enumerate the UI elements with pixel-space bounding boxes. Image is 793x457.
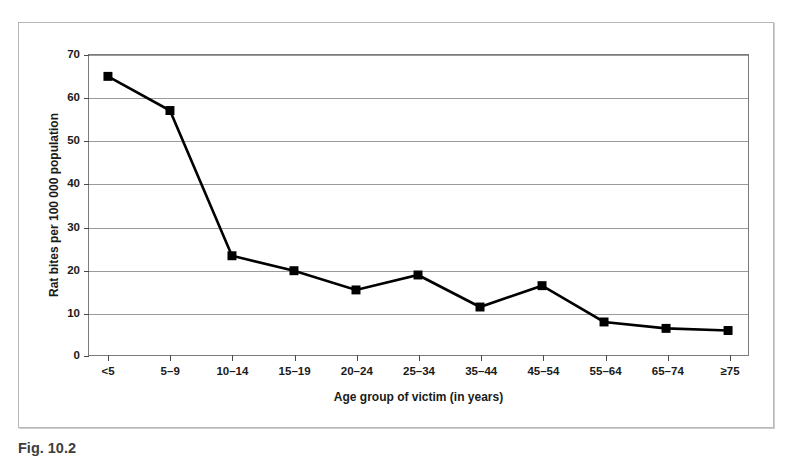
data-point-marker — [165, 106, 174, 115]
figure-caption: Fig. 10.2 — [18, 441, 778, 457]
series-markers — [103, 72, 732, 335]
x-tick-mark — [730, 355, 731, 361]
x-tick-label: ≥75 — [720, 366, 739, 378]
x-tick-mark — [357, 355, 358, 361]
x-tick-label: 25–34 — [403, 366, 435, 378]
data-point-marker — [227, 251, 236, 260]
data-series — [89, 55, 748, 355]
x-tick-mark — [419, 355, 420, 361]
x-tick-label: 10–14 — [216, 366, 248, 378]
data-point-marker — [476, 303, 485, 312]
x-tick-mark — [543, 355, 544, 361]
data-point-marker — [662, 324, 671, 333]
y-tick-label: 0 — [74, 350, 80, 362]
x-tick-label: <5 — [101, 366, 114, 378]
data-point-marker — [352, 285, 361, 294]
data-point-marker — [538, 281, 547, 290]
y-tick-label: 40 — [67, 179, 80, 191]
data-point-marker — [289, 266, 298, 275]
y-axis-title: Rat bites per 100 000 population — [45, 54, 63, 356]
x-tick-label: 5–9 — [161, 366, 180, 378]
data-point-marker — [724, 326, 733, 335]
x-tick-mark — [668, 355, 669, 361]
x-tick-label: 20–24 — [341, 366, 373, 378]
x-tick-label: 55–64 — [590, 366, 622, 378]
x-tick-label: 15–19 — [279, 366, 311, 378]
y-tick-label: 20 — [67, 265, 80, 277]
plot-area: 70 60 50 40 30 20 10 0 <5 5–9 10–14 15–1… — [88, 54, 749, 356]
x-axis-title: Age group of victim (in years) — [88, 390, 749, 404]
x-tick-mark — [606, 355, 607, 361]
y-tick-mark — [84, 356, 89, 357]
y-tick-label: 50 — [67, 136, 80, 148]
x-tick-mark — [232, 355, 233, 361]
x-tick-label: 35–44 — [465, 366, 497, 378]
x-tick-mark — [295, 355, 296, 361]
data-point-marker — [600, 318, 609, 327]
x-tick-label: 45–54 — [527, 366, 559, 378]
figure-frame: Rat bites per 100 000 population 70 60 5… — [18, 22, 774, 428]
x-tick-label: 65–74 — [652, 366, 684, 378]
x-tick-mark — [108, 355, 109, 361]
data-point-marker — [103, 72, 112, 81]
y-tick-label: 70 — [67, 49, 80, 61]
x-tick-mark — [170, 355, 171, 361]
y-tick-label: 60 — [67, 92, 80, 104]
series-line — [108, 76, 728, 330]
x-tick-mark — [481, 355, 482, 361]
y-tick-label: 30 — [67, 222, 80, 234]
y-tick-label: 10 — [67, 308, 80, 320]
data-point-marker — [414, 271, 423, 280]
